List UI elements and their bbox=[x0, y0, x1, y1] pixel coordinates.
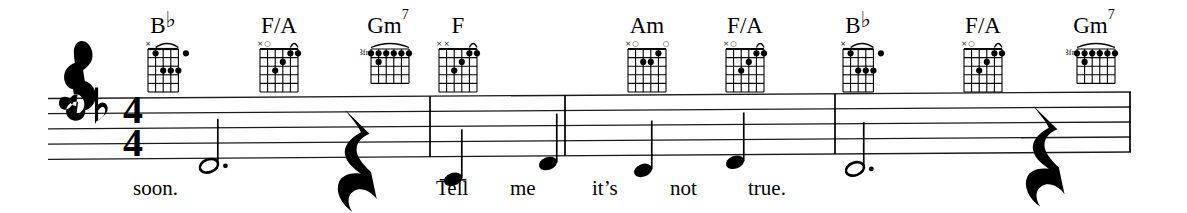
finger-dot bbox=[287, 50, 293, 56]
sheet-music-system: B♭×F/A×○Gm73frF××Am×○○F/A×○B♭×F/A×○Gm73f… bbox=[0, 0, 1187, 213]
chord-symbol-Bb: B♭ bbox=[150, 14, 176, 37]
notehead bbox=[724, 153, 746, 171]
finger-dot bbox=[160, 67, 166, 73]
chord-diagram-Bb: × bbox=[842, 48, 874, 93]
chord-symbol-Am: Am bbox=[630, 14, 665, 37]
lyric-syllable: Tell bbox=[436, 178, 468, 199]
finger-dot bbox=[376, 59, 382, 65]
lyric-syllable: true. bbox=[748, 178, 786, 199]
key-signature-flat bbox=[95, 88, 108, 124]
open-string-marker: ○ bbox=[730, 39, 737, 48]
chord-grid: ×○ bbox=[953, 37, 1013, 96]
chord-grid: ×○ bbox=[249, 37, 309, 96]
chord-diagram-F-A: ×○ bbox=[963, 48, 1003, 93]
chord-root: F bbox=[452, 13, 465, 38]
chord-symbol-Gm7: Gm7 bbox=[1073, 14, 1115, 37]
finger-dot bbox=[474, 50, 480, 56]
chord-diagram-Am: ×○○ bbox=[627, 48, 667, 93]
finger-dot bbox=[862, 67, 868, 73]
muted-string-marker: × bbox=[436, 39, 442, 48]
chord-symbol-Bb: B♭ bbox=[845, 14, 871, 37]
finger-dot bbox=[398, 50, 404, 56]
lyric-syllable: soon. bbox=[133, 178, 178, 199]
finger-dot bbox=[1082, 59, 1088, 65]
chord-root: B bbox=[845, 13, 860, 38]
chord-root: Gm bbox=[367, 13, 402, 38]
chord-root: F/A bbox=[261, 13, 297, 38]
finger-dot bbox=[459, 59, 465, 65]
finger-dot bbox=[976, 67, 982, 73]
chord-root: B bbox=[150, 13, 165, 38]
chord-root: F/A bbox=[727, 13, 763, 38]
muted-string-marker: × bbox=[961, 39, 967, 48]
chord-diagram-F-A: ×○ bbox=[259, 48, 299, 93]
muted-string-marker: × bbox=[443, 39, 449, 48]
quarter-rest bbox=[338, 110, 377, 212]
chord-symbol-F-A: F/A bbox=[261, 14, 297, 37]
muted-string-marker: × bbox=[625, 39, 631, 48]
finger-dot bbox=[753, 50, 759, 56]
chord-diagram-F: ×× bbox=[438, 48, 478, 93]
finger-dot bbox=[999, 50, 1005, 56]
finger-dot bbox=[1089, 50, 1095, 56]
notehead bbox=[844, 160, 866, 178]
barre-arc bbox=[756, 44, 764, 48]
finger-dot bbox=[368, 50, 374, 56]
finger-dot bbox=[655, 50, 661, 56]
finger-dot bbox=[984, 59, 990, 65]
notehead bbox=[198, 157, 220, 175]
chord-extension: 7 bbox=[1108, 7, 1115, 22]
barre-arc bbox=[850, 44, 873, 48]
chord-root: Gm bbox=[1073, 13, 1108, 38]
chord-diagram-F-A: ×○ bbox=[725, 48, 765, 93]
chord-root: Am bbox=[630, 13, 665, 38]
finger-dot bbox=[648, 59, 654, 65]
barlines-group bbox=[430, 92, 1130, 157]
finger-dot bbox=[466, 50, 472, 56]
muted-string-marker: × bbox=[723, 39, 729, 48]
chord-diagram-Bb: × bbox=[147, 48, 179, 93]
finger-dot bbox=[406, 50, 412, 56]
chord-symbol-F-A: F/A bbox=[727, 14, 763, 37]
finger-dot bbox=[1074, 50, 1080, 56]
treble-clef-icon bbox=[59, 41, 96, 121]
finger-dot bbox=[391, 50, 397, 56]
chord-diagram-Gm7: 3fr bbox=[370, 48, 410, 84]
chord-accidental: ♭ bbox=[165, 7, 175, 32]
notehead bbox=[537, 154, 559, 172]
augmentation-dot bbox=[869, 167, 874, 172]
barre-arc bbox=[1077, 43, 1115, 47]
chord-grid: 3fr bbox=[1066, 37, 1126, 87]
chord-grid: × bbox=[137, 37, 189, 96]
finger-dot bbox=[295, 50, 301, 56]
time-signature-denominator: 4 bbox=[123, 120, 143, 165]
finger-dot bbox=[870, 67, 876, 73]
chord-grid: ×○○ bbox=[617, 37, 677, 96]
finger-dot bbox=[878, 50, 884, 56]
finger-dot bbox=[1082, 50, 1088, 56]
open-string-marker: ○ bbox=[264, 39, 271, 48]
lyric-syllable: me bbox=[510, 178, 536, 199]
finger-dot bbox=[640, 59, 646, 65]
finger-dot bbox=[738, 67, 744, 73]
staff-line bbox=[48, 107, 1131, 114]
finger-dot bbox=[280, 59, 286, 65]
open-string-marker: ○ bbox=[968, 39, 975, 48]
muted-string-marker: × bbox=[145, 39, 151, 48]
chord-grid: ×○ bbox=[715, 37, 775, 96]
finger-dot bbox=[167, 67, 173, 73]
finger-dot bbox=[761, 50, 767, 56]
finger-dot bbox=[991, 50, 997, 56]
chord-symbol-Gm7: Gm7 bbox=[367, 14, 409, 37]
staff-line bbox=[48, 152, 1131, 159]
finger-dot bbox=[376, 50, 382, 56]
chord-grid: 3fr bbox=[360, 37, 420, 87]
fret-position-label: 3fr bbox=[360, 47, 369, 57]
barre-arc bbox=[994, 44, 1002, 48]
staff-lines-group bbox=[48, 92, 1131, 159]
chord-symbol-F: F bbox=[452, 14, 465, 37]
fret-position-label: 3fr bbox=[1066, 47, 1075, 57]
finger-dot bbox=[272, 67, 278, 73]
lyric-syllable: not bbox=[670, 178, 697, 199]
finger-dot bbox=[1112, 50, 1118, 56]
